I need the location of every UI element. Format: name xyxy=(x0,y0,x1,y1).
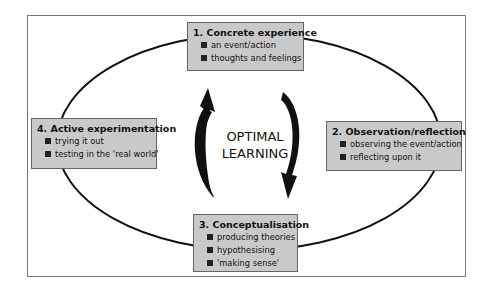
bullet-square-icon xyxy=(340,154,346,160)
bullet-square-icon xyxy=(207,260,213,266)
stage-item: reflecting upon it xyxy=(340,151,455,164)
stage-observation-reflection: 2. Observation/reflection observing the … xyxy=(326,121,462,171)
bullet-square-icon xyxy=(45,138,51,144)
bullet-square-icon xyxy=(207,247,213,253)
stage-item: trying it out xyxy=(45,135,150,148)
center-label-line-1: OPTIMAL xyxy=(215,128,295,145)
stage-item: hypothesising xyxy=(207,244,291,257)
stage-item: testing in the 'real world' xyxy=(45,148,150,161)
stage-item: thoughts and feelings xyxy=(201,52,297,65)
center-label: OPTIMAL LEARNING xyxy=(215,128,295,162)
stage-item: 'making sense' xyxy=(207,257,291,270)
stage-title: 4. Active experimentation xyxy=(37,122,150,135)
stage-item: producing theories xyxy=(207,231,291,244)
bullet-square-icon xyxy=(201,55,207,61)
stage-concrete-experience: 1. Concrete experience an event/action t… xyxy=(187,22,304,71)
stage-title: 3. Conceptualisation xyxy=(199,218,291,231)
stage-conceptualisation: 3. Conceptualisation producing theories … xyxy=(193,214,298,272)
stage-active-experimentation: 4. Active experimentation trying it out … xyxy=(31,118,157,169)
bullet-square-icon xyxy=(340,141,346,147)
bullet-square-icon xyxy=(45,151,51,157)
stage-item: an event/action xyxy=(201,39,297,52)
bullet-square-icon xyxy=(201,42,207,48)
center-label-line-2: LEARNING xyxy=(215,145,295,162)
bullet-square-icon xyxy=(207,234,213,240)
stage-title: 2. Observation/reflection xyxy=(332,125,455,138)
stage-item: observing the event/action xyxy=(340,138,455,151)
stage-title: 1. Concrete experience xyxy=(193,26,297,39)
